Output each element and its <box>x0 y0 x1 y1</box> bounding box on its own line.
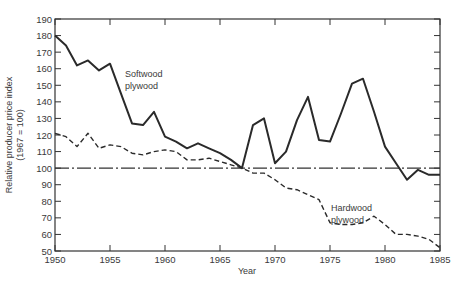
x-tick-label: 1960 <box>154 254 175 265</box>
y-tick-labels: 5060708090100110120130140150160170180190 <box>36 14 52 257</box>
x-axis-label: Year <box>238 266 256 276</box>
y-tick-label: 160 <box>36 63 52 74</box>
y-tick-label: 180 <box>36 30 52 41</box>
x-tick-label: 1970 <box>264 254 285 265</box>
price-index-chart: 5060708090100110120130140150160170180190… <box>0 0 461 286</box>
y-tick-label: 80 <box>41 196 52 207</box>
y-tick-label: 110 <box>37 146 52 157</box>
x-tick-label: 1965 <box>209 254 230 265</box>
softwood-label-line1: Softwood <box>125 69 163 79</box>
y-axis-label: Relative producer price index <box>4 76 14 193</box>
x-tick-label: 1980 <box>374 254 395 265</box>
y-tick-label: 60 <box>41 229 52 240</box>
hardwood-label-line2: plywood <box>331 215 364 225</box>
y-tick-label: 140 <box>36 96 52 107</box>
x-tick-label: 1955 <box>99 254 120 265</box>
softwood-line <box>55 36 440 180</box>
y-tick-label: 70 <box>41 212 52 223</box>
x-tick-labels: 19501955196019651970197519801985 <box>44 254 450 265</box>
x-tick-label: 1985 <box>429 254 450 265</box>
hardwood-label-line1: Hardwood <box>331 203 372 213</box>
softwood-label-line2: plywood <box>125 81 158 91</box>
series-lines <box>55 36 440 248</box>
x-tick-label: 1950 <box>44 254 65 265</box>
y-tick-label: 150 <box>36 80 52 91</box>
y-tick-label: 170 <box>36 47 52 58</box>
y-tick-label: 130 <box>36 113 52 124</box>
softwood-label: Softwood plywood <box>125 69 163 91</box>
y-tick-label: 120 <box>36 130 52 141</box>
x-tick-label: 1975 <box>319 254 340 265</box>
y-tick-label: 190 <box>36 14 52 25</box>
y-tick-label: 90 <box>41 179 52 190</box>
hardwood-label: Hardwood plywood <box>331 203 372 225</box>
y-tick-label: 100 <box>36 163 52 174</box>
y-axis-sublabel: (1967 = 100) <box>15 109 25 160</box>
